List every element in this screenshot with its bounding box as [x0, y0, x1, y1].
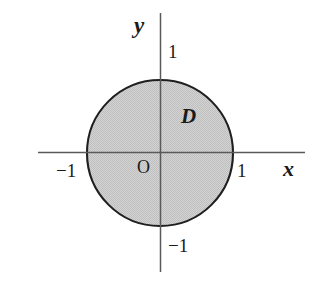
x-axis-label: x: [283, 158, 294, 180]
region-label-d: D: [181, 106, 196, 127]
origin-label: O: [137, 158, 150, 176]
x-tick-label-negative-one: −1: [56, 161, 76, 180]
y-tick-label-negative-one: −1: [168, 236, 188, 255]
y-axis-label: y: [134, 14, 144, 37]
y-tick-label-positive-one: 1: [168, 42, 178, 61]
unit-disk-figure: y x D O 1 −1 −1 1: [0, 0, 312, 286]
plot-canvas: [0, 0, 312, 286]
x-tick-label-positive-one: 1: [237, 161, 247, 180]
